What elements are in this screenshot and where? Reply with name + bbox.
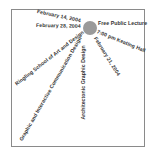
date-feb-28-label: February 28, 2004 bbox=[36, 23, 81, 29]
architectonic-graphic-design-label: Architectonic Graphic Design bbox=[81, 45, 86, 119]
free-public-lecture-label: Free Public Lecture bbox=[98, 21, 147, 26]
center-circle-icon bbox=[83, 21, 97, 35]
